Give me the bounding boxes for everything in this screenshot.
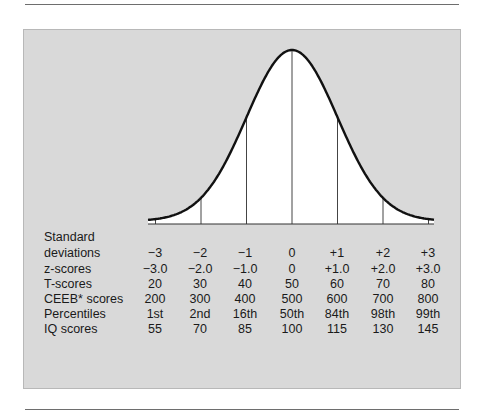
cell-pct: 98th	[358, 307, 408, 321]
cell-pct: 2nd	[175, 307, 225, 321]
cell-ceeb: 700	[358, 292, 408, 306]
cell-iq: 100	[267, 322, 317, 336]
cell-sd: −1	[220, 246, 270, 260]
cell-z: +1.0	[312, 262, 362, 276]
cell-t: 50	[267, 277, 317, 291]
sd-lines	[156, 50, 429, 224]
cell-iq: 130	[358, 322, 408, 336]
label-z-scores: z-scores	[44, 262, 91, 276]
cell-sd: +1	[312, 246, 362, 260]
label-t-scores: T-scores	[44, 277, 92, 291]
cell-pct: 84th	[312, 307, 362, 321]
label-percentiles: Percentiles	[44, 307, 106, 321]
cell-sd: +2	[358, 246, 408, 260]
cell-t: 70	[358, 277, 408, 291]
cell-sd: 0	[267, 246, 317, 260]
cell-ceeb: 800	[403, 292, 453, 306]
cell-z: −3.0	[130, 262, 180, 276]
cell-t: 30	[175, 277, 225, 291]
cell-iq: 70	[175, 322, 225, 336]
cell-z: −1.0	[220, 262, 270, 276]
cell-t: 80	[403, 277, 453, 291]
cell-t: 60	[312, 277, 362, 291]
cell-ceeb: 300	[175, 292, 225, 306]
label-deviations: deviations	[44, 246, 100, 260]
cell-ceeb: 400	[220, 292, 270, 306]
cell-pct: 16th	[220, 307, 270, 321]
cell-ceeb: 600	[312, 292, 362, 306]
cell-ceeb: 500	[267, 292, 317, 306]
cell-z: +3.0	[403, 262, 453, 276]
bottom-rule	[25, 409, 459, 410]
cell-t: 20	[130, 277, 180, 291]
cell-iq: 145	[403, 322, 453, 336]
cell-iq: 85	[220, 322, 270, 336]
cell-pct: 1st	[130, 307, 180, 321]
cell-sd: −3	[130, 246, 180, 260]
cell-z: −2.0	[175, 262, 225, 276]
cell-pct: 99th	[403, 307, 453, 321]
cell-iq: 55	[130, 322, 180, 336]
cell-ceeb: 200	[130, 292, 180, 306]
label-ceeb-scores: CEEB* scores	[44, 292, 123, 306]
cell-z: +2.0	[358, 262, 408, 276]
cell-z: 0	[267, 262, 317, 276]
label-standard: Standard	[44, 230, 95, 244]
curve-area	[148, 50, 434, 224]
cell-sd: +3	[403, 246, 453, 260]
cell-iq: 115	[312, 322, 362, 336]
cell-t: 40	[220, 277, 270, 291]
cell-sd: −2	[175, 246, 225, 260]
cell-pct: 50th	[267, 307, 317, 321]
label-iq-scores: IQ scores	[44, 322, 98, 336]
normal-curve-diagram	[0, 0, 481, 414]
